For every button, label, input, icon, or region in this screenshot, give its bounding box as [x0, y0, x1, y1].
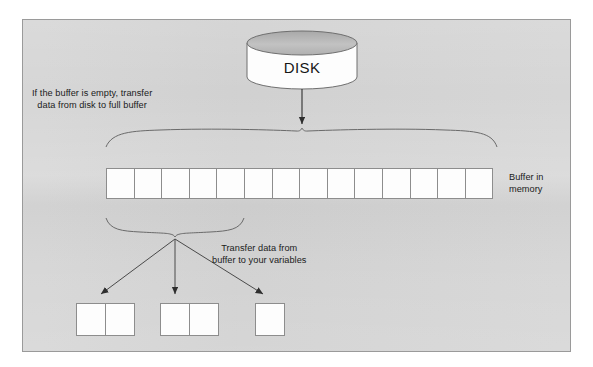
brace-buffer-segment — [106, 218, 244, 237]
buffer-cell — [216, 168, 245, 199]
buffer-cell — [465, 168, 494, 199]
buffer-cell — [327, 168, 356, 199]
buffer-cell — [382, 168, 411, 199]
buffer-cell — [244, 168, 273, 199]
buffer-cell — [410, 168, 439, 199]
buffer-cell — [106, 168, 135, 199]
diagram-canvas: DISK If the buffer is empty, transferdat… — [0, 0, 593, 367]
note-disk-to-buffer: If the buffer is empty, transferdata fro… — [32, 88, 152, 111]
arrow-buffer-to-variable-1 — [101, 239, 175, 294]
buffer-cell — [437, 168, 466, 199]
variable-box-3-cell — [255, 303, 285, 336]
buffer-cell — [354, 168, 383, 199]
variable-box-2-cell — [189, 303, 219, 336]
note-buffer-to-variables: Transfer data frombuffer to your variabl… — [212, 243, 307, 266]
variable-box-1-cell — [105, 303, 135, 336]
disk-label: DISK — [284, 59, 321, 76]
buffer-cell — [299, 168, 328, 199]
variable-box-2-cell — [160, 303, 190, 336]
buffer-cell — [161, 168, 190, 199]
buffer-cell — [134, 168, 163, 199]
buffer-memory-label: Buffer inmemory — [509, 172, 544, 195]
buffer-cell — [189, 168, 218, 199]
variable-box-1-cell — [76, 303, 106, 336]
disk-top-ellipse — [247, 31, 357, 55]
brace-buffer-full — [106, 128, 497, 147]
buffer-cell — [272, 168, 301, 199]
